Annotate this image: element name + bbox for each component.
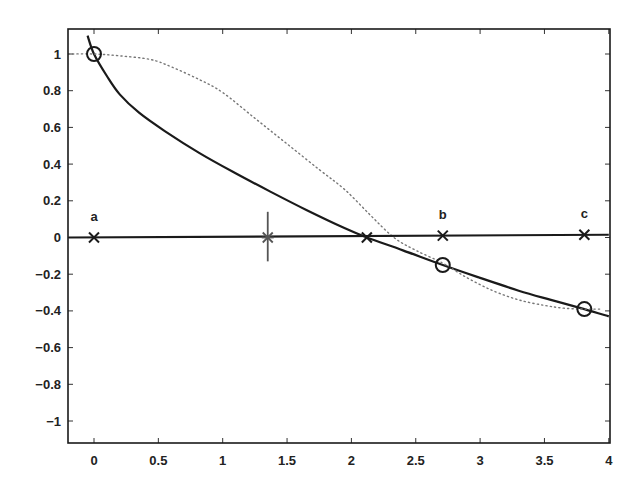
x-tick-label: 1: [219, 453, 226, 468]
plot-series: [68, 36, 609, 317]
x-axis-tick-labels: 00.511.522.533.54: [90, 453, 613, 468]
x-tick-label: 2: [348, 453, 355, 468]
point-label-c: c: [581, 206, 588, 221]
y-axis-tick-labels: 10.80.60.40.20−0.2−0.4−0.6−0.8−1: [35, 47, 61, 429]
x-tick-label: 3.5: [535, 453, 553, 468]
x-tick-label: 3: [476, 453, 483, 468]
x-tick-label: 0: [90, 453, 97, 468]
y-tick-label: −0.8: [35, 377, 61, 392]
x-marker: [362, 233, 372, 243]
x-tick-label: 1.5: [278, 453, 296, 468]
y-tick-label: 0.8: [43, 83, 61, 98]
chart-canvas: 00.511.522.533.54 10.80.60.40.20−0.2−0.4…: [0, 0, 639, 481]
y-tick-label: 0.2: [43, 193, 61, 208]
zero-line: [68, 235, 609, 238]
x-tick-label: 4: [605, 453, 613, 468]
y-tick-label: −0.2: [35, 267, 61, 282]
x-tick-label: 0.5: [149, 453, 167, 468]
solid-curve: [88, 36, 609, 317]
y-tick-label: 0.4: [43, 157, 62, 172]
point-label-a: a: [90, 209, 98, 224]
y-tick-label: 0: [54, 230, 61, 245]
x-tick-label: 2.5: [407, 453, 425, 468]
dotted-curve: [68, 54, 602, 309]
y-tick-label: 0.6: [43, 120, 61, 135]
y-tick-label: −1: [46, 414, 61, 429]
plot-markers: abc: [87, 47, 591, 316]
y-tick-label: 1: [54, 47, 61, 62]
y-tick-label: −0.4: [35, 303, 61, 318]
point-label-b: b: [439, 207, 447, 222]
y-tick-label: −0.6: [35, 340, 61, 355]
